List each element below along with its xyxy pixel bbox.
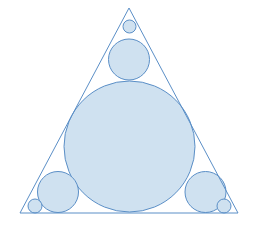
figure-root	[0, 0, 257, 227]
apex-medium-circle	[109, 39, 150, 80]
circle-packing-diagram	[0, 0, 257, 227]
bottom-right-tiny-circle	[217, 199, 231, 213]
apex-tiny-circle	[123, 20, 136, 33]
bottom-left-medium-circle	[38, 172, 79, 213]
bottom-left-tiny-circle	[28, 199, 42, 213]
incircle-large	[64, 81, 195, 212]
